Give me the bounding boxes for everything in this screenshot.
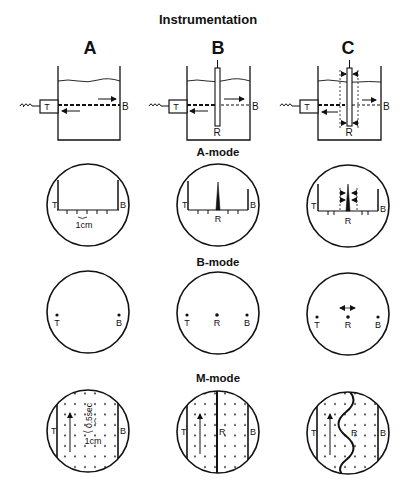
tank-a [20,66,120,140]
svg-text:T: T [182,200,188,210]
m-mode-scope-c [307,385,389,480]
tank-b-b-label: B [252,101,259,112]
tank-c-r-label: R [345,127,352,138]
svg-text:B: B [380,428,386,438]
svg-text:B: B [375,320,381,330]
tank-b [149,60,250,140]
tank-c-t-label: T [304,102,310,112]
tank-b-t-label: T [173,102,179,112]
svg-text:T: T [52,200,58,210]
svg-text:R: R [214,318,221,328]
svg-text:T: T [54,318,60,328]
tank-a-b-label: B [122,101,129,112]
svg-text:R: R [219,427,226,437]
reflector-rod-b [215,68,220,126]
svg-text:B: B [120,200,126,210]
b-mode-scope-c [307,273,389,355]
svg-text:B: B [116,318,122,328]
svg-text:B: B [250,427,256,437]
a-mode-scope-c [307,165,389,247]
b-mode-scope-a [47,271,129,353]
svg-text:R: R [345,216,352,226]
tank-b-r-label: R [213,127,220,138]
m-mode-scope-b [177,385,259,480]
m-mode-scope-a [47,385,129,480]
svg-text:B: B [244,318,250,328]
svg-text:T: T [311,428,317,438]
svg-text:R: R [345,320,352,330]
svg-text:B: B [120,426,126,436]
svg-text:T: T [184,318,190,328]
svg-text:B: B [380,204,386,214]
svg-text:T: T [314,320,320,330]
tank-c-b-label: B [383,101,390,112]
diagram-canvas: T B T B R T B R [0,0,411,501]
svg-text:T: T [51,426,57,436]
svg-text:R: R [215,214,222,224]
m-mode-distance-scale-label: 1cm [84,436,101,446]
a-mode-scope-a [47,164,129,246]
m-mode-time-scale-label: 0.5sec [84,402,94,428]
svg-text:B: B [250,200,256,210]
tank-a-t-label: T [44,102,50,112]
tank-c [280,60,381,140]
a-mode-scale-label: 1cm [75,220,92,230]
b-mode-scope-b [177,272,259,354]
svg-text:T: T [181,427,187,437]
a-mode-scope-b [177,164,259,246]
svg-text:R: R [351,428,358,438]
svg-text:T: T [311,201,317,211]
